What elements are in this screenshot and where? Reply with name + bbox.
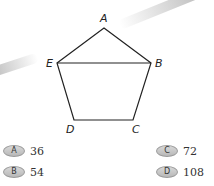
choice-badge-b: B [3,166,25,178]
choice-value-c: 72 [183,146,197,157]
choice-value-a: 36 [30,146,44,157]
answer-choice-c[interactable]: C 72 [156,145,197,157]
vertex-label-c: C [132,124,140,135]
choice-badge-a: A [3,145,25,157]
answer-choice-d[interactable]: D 108 [156,166,204,178]
pentagon-abcde [57,28,151,120]
pentagon-figure [0,0,214,186]
answer-choice-a[interactable]: A 36 [3,145,44,157]
vertex-label-d: D [66,124,74,135]
choice-badge-d: D [156,166,178,178]
vertex-label-e: E [46,58,53,69]
vertex-label-b: B [155,58,163,69]
choice-value-b: 54 [30,167,44,178]
answer-choice-b[interactable]: B 54 [3,166,44,178]
choice-badge-c: C [156,145,178,157]
choice-value-d: 108 [183,167,204,178]
vertex-label-a: A [100,13,108,24]
